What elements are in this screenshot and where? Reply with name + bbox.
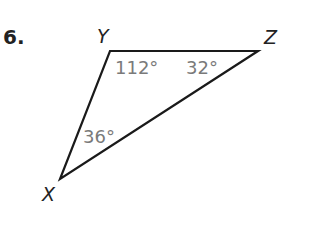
angle-label-z: 32° <box>186 59 218 77</box>
vertex-label-x: X <box>42 185 55 204</box>
triangle-outline <box>60 51 258 179</box>
vertex-label-z: Z <box>264 28 277 47</box>
angle-label-x: 36° <box>83 128 115 146</box>
vertex-label-y: Y <box>97 27 109 46</box>
angle-label-y: 112° <box>115 59 158 77</box>
